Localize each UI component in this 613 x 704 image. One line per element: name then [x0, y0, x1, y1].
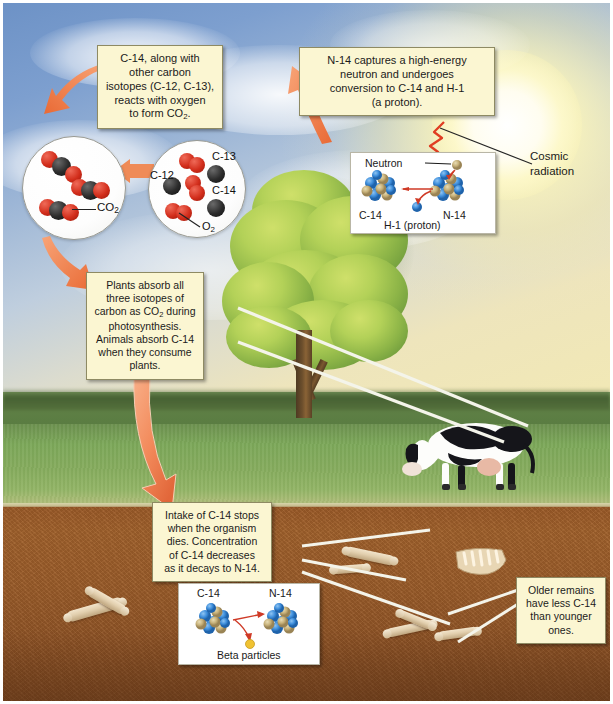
co2-leader-line	[72, 209, 96, 210]
oxygen-atom	[189, 157, 205, 173]
callout-line-co2: carbon as CO2 during	[94, 305, 196, 319]
c14-nucleus	[362, 170, 397, 201]
callout-line: have less C-14	[524, 597, 598, 610]
c14-atom	[207, 199, 225, 217]
callout-intake-stops: Intake of C-14 stops when the organism d…	[152, 502, 272, 582]
leader-lines-plants-animals	[236, 296, 536, 456]
callout-line: when the organism	[160, 522, 264, 535]
c13-atom	[207, 165, 225, 183]
beta-particle	[246, 640, 255, 649]
callout-n14-neutron-capture: N-14 captures a high-energy neutron and …	[299, 47, 495, 116]
beta-particles-label: Beta particles	[217, 649, 281, 662]
panel-neutron-capture-reaction: Neutron C-14 N-14 H-1 (proton)	[350, 152, 496, 234]
neutron-label: Neutron	[365, 157, 402, 170]
callout-plants-absorb: Plants absorb all three isotopes of carb…	[86, 272, 204, 380]
neutron-particle	[452, 160, 462, 170]
callout-line: as it decays to N-14.	[160, 562, 264, 575]
c14-decay-label: C-14	[197, 587, 220, 600]
callout-co2-formation: C-14, along with other carbon isotopes (…	[97, 45, 223, 129]
callout-line: conversion to C-14 and H-1	[307, 82, 487, 96]
callout-line: N-14 captures a high-energy	[307, 54, 487, 68]
oxygen-atom	[62, 204, 79, 221]
callout-line: Intake of C-14 stops	[160, 509, 264, 522]
n14-decay-label: N-14	[269, 587, 292, 600]
co2-label: CO2	[97, 201, 119, 215]
n14-nucleus	[430, 170, 465, 201]
oxygen-atom	[93, 182, 110, 199]
callout-line: plants.	[94, 359, 196, 372]
o2-leader-line	[178, 212, 204, 230]
callout-line: C-14, along with	[105, 52, 215, 66]
callout-line: when they consume	[94, 346, 196, 359]
callout-line: other carbon	[105, 66, 215, 80]
h1-proton-label: H-1 (proton)	[384, 219, 441, 232]
callout-line: neutron and undergoes	[307, 68, 487, 82]
callout-line: reacts with oxygen	[105, 94, 215, 108]
c13-label: C-13	[212, 150, 236, 162]
callout-line: (a proton).	[307, 96, 487, 110]
o2-label: O2	[202, 220, 215, 234]
c12-label: C-12	[150, 169, 174, 181]
callout-line-co2: to form CO2.	[105, 107, 215, 122]
carbon-dating-diagram: C-14, along with other carbon isotopes (…	[0, 0, 613, 704]
n14-nucleus-decay	[264, 603, 299, 634]
callout-older-remains: Older remains have less C-14 than younge…	[516, 577, 606, 644]
callout-line: Animals absorb C-14	[94, 333, 196, 346]
callout-line: three isotopes of	[94, 292, 196, 305]
callout-line: than younger	[524, 610, 598, 623]
oxygen-atom	[189, 185, 205, 201]
callout-line: dies. Concentration	[160, 535, 264, 548]
cosmic-radiation-label-line1: Cosmic	[530, 150, 568, 162]
callout-line: isotopes (C-12, C-13),	[105, 80, 215, 94]
panel-beta-decay-reaction: C-14 N-14 Beta particles	[178, 583, 320, 665]
c14-label: C-14	[359, 209, 382, 222]
n14-label: N-14	[443, 209, 466, 222]
c14-isotope-label: C-14	[212, 184, 236, 196]
cosmic-radiation-label-line2: radiation	[530, 165, 574, 177]
c14-nucleus-decay	[196, 603, 231, 634]
callout-line: ones.	[524, 624, 598, 637]
co2-molecules-circle	[22, 136, 126, 240]
leader-lines-older-remains	[446, 584, 520, 648]
callout-line: Older remains	[524, 584, 598, 597]
proton-particle	[412, 202, 422, 212]
arrow-to-death-box	[128, 368, 200, 518]
callout-line: photosynthesis.	[94, 320, 196, 333]
callout-line: of C-14 decreases	[160, 549, 264, 562]
callout-line: Plants absorb all	[94, 279, 196, 292]
